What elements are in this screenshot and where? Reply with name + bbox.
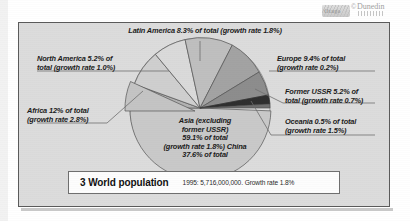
copyright-icon: ©	[351, 3, 356, 10]
figure-caption-title: 3 World population	[80, 177, 169, 188]
label-latin-america: Latin America 8.3% of total (growth rate…	[115, 27, 295, 36]
publisher-watermark: Otago © Dunedin	[322, 1, 406, 19]
figure-panel: Latin America 8.3% of total (growth rate…	[18, 22, 390, 207]
label-africa: Africa 12% of total (growth rate 2.8%)	[27, 107, 127, 124]
panel-drop-shadow	[21, 208, 393, 211]
figure-root: Otago © Dunedin	[0, 0, 410, 221]
publisher-wordmark-underline-icon	[358, 11, 384, 16]
label-europe: Europe 9.4% of total (growth rate 0.2%)	[277, 55, 387, 72]
label-asia: Asia (excluding former USSR) 59.1% of to…	[125, 117, 285, 160]
page-left-edge	[0, 0, 8, 221]
figure-caption-details: 1995: 5,716,000,000. Growth rate 1.8%	[183, 179, 295, 186]
label-oceania: Oceania 0.5% of total (growth rate 1.5%)	[285, 118, 389, 135]
chart-stage: Latin America 8.3% of total (growth rate…	[19, 23, 391, 208]
otago-logo-text: Otago	[324, 8, 341, 14]
label-north-america: North America 5.2% of total (growth rate…	[37, 55, 141, 72]
figure-caption-box: 3 World population 1995: 5,716,000,000. …	[68, 171, 340, 194]
publisher-name: Dunedin	[357, 2, 385, 11]
label-former-ussr: Former USSR 5.2% of total (growth rate 0…	[285, 88, 389, 105]
